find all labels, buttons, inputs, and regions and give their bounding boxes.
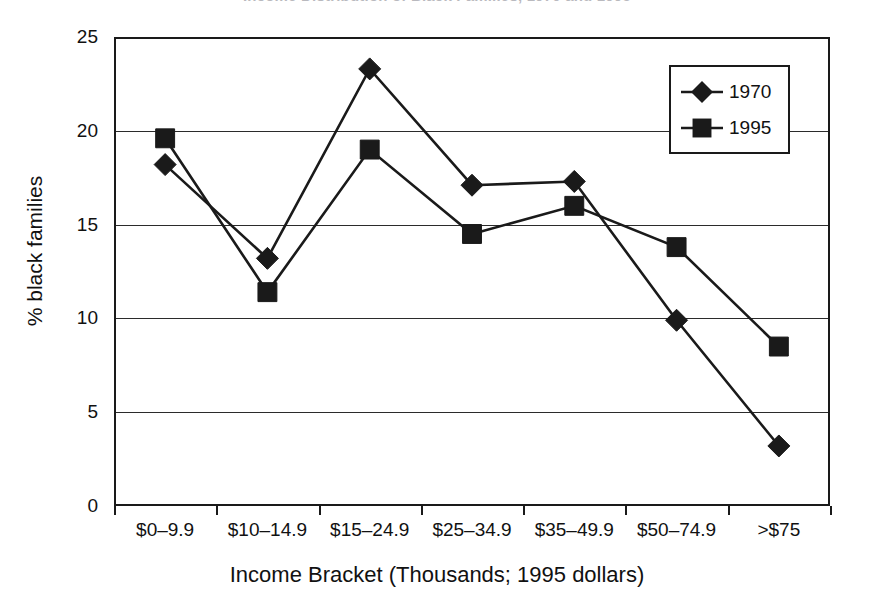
legend-label: 1970 <box>729 81 771 103</box>
legend-item-1995: 1995 <box>671 111 788 145</box>
gridline <box>116 225 828 226</box>
x-axis-tick <box>319 506 321 515</box>
y-axis-title: % black families <box>23 41 47 461</box>
x-axis-ticks <box>114 506 830 516</box>
gridline <box>116 412 828 413</box>
diamond-marker <box>679 75 725 109</box>
square-marker <box>679 111 725 145</box>
x-axis-tick <box>625 506 627 515</box>
legend-item-1970: 1970 <box>671 75 788 109</box>
x-axis-tick <box>523 506 525 515</box>
x-axis-tick <box>114 506 116 515</box>
x-axis-tick <box>216 506 218 515</box>
chart-title-clipped: Income Distribution of Black Families, 1… <box>0 0 874 5</box>
x-axis-tick <box>830 506 832 515</box>
x-axis-title: Income Bracket (Thousands; 1995 dollars) <box>0 562 874 588</box>
legend-label: 1995 <box>729 117 771 139</box>
y-axis-tick-label: 0 <box>36 496 98 515</box>
chart-page: Income Distribution of Black Families, 1… <box>0 0 874 610</box>
x-axis-tick-label: >$75 <box>694 519 864 541</box>
x-axis-tick <box>728 506 730 515</box>
gridline <box>116 318 828 319</box>
x-axis-tick <box>421 506 423 515</box>
chart-legend: 19701995 <box>669 65 790 154</box>
